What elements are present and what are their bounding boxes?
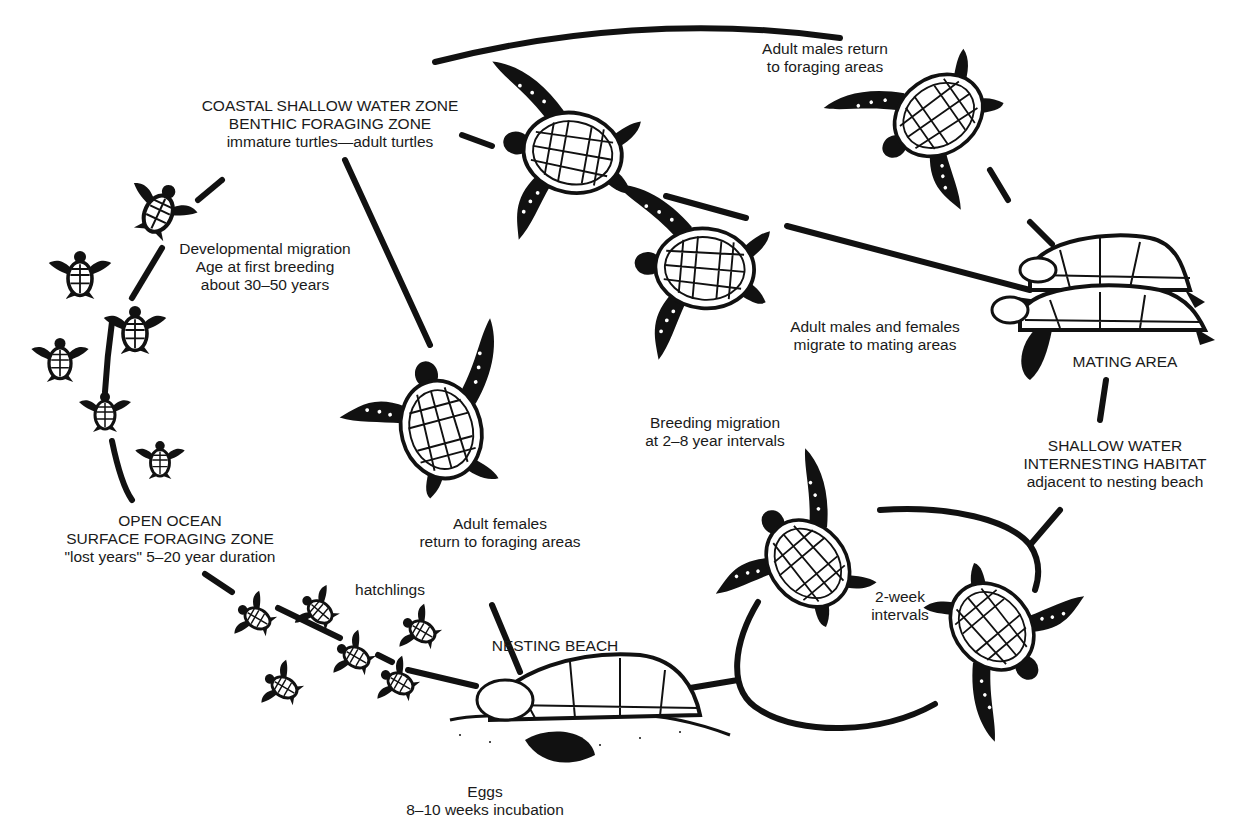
adult-turtle-migrating (602, 184, 775, 368)
label-nesting-beach: NESTING BEACH (480, 637, 630, 655)
internesting-turtle-1 (681, 448, 902, 667)
label-females-return: Adult females return to foraging areas (395, 515, 605, 551)
label-two-week-intervals: 2-week intervals (860, 588, 940, 624)
label-coastal-zone: COASTAL SHALLOW WATER ZONE BENTHIC FORAG… (180, 97, 480, 151)
adult-female-returning (325, 318, 531, 516)
label-open-ocean: OPEN OCEAN SURFACE FORAGING ZONE "lost y… (40, 512, 300, 566)
label-internesting-habitat: SHALLOW WATER INTERNESTING HABITAT adjac… (1000, 437, 1230, 491)
label-males-return: Adult males return to foraging areas (740, 40, 910, 76)
label-breeding-migration: Breeding migration at 2–8 year intervals (630, 414, 800, 450)
nesting-turtle (450, 654, 730, 762)
adult-turtle-coastal (463, 61, 649, 257)
juvenile-turtle (117, 171, 203, 250)
label-migrate-to-mating: Adult males and females migrate to matin… (775, 318, 975, 354)
label-mating-area: MATING AREA (1055, 353, 1195, 371)
label-hatchlings: hatchlings (340, 581, 440, 599)
label-developmental-migration: Developmental migration Age at first bre… (160, 240, 370, 294)
label-eggs: Eggs 8–10 weeks incubation (385, 783, 585, 819)
